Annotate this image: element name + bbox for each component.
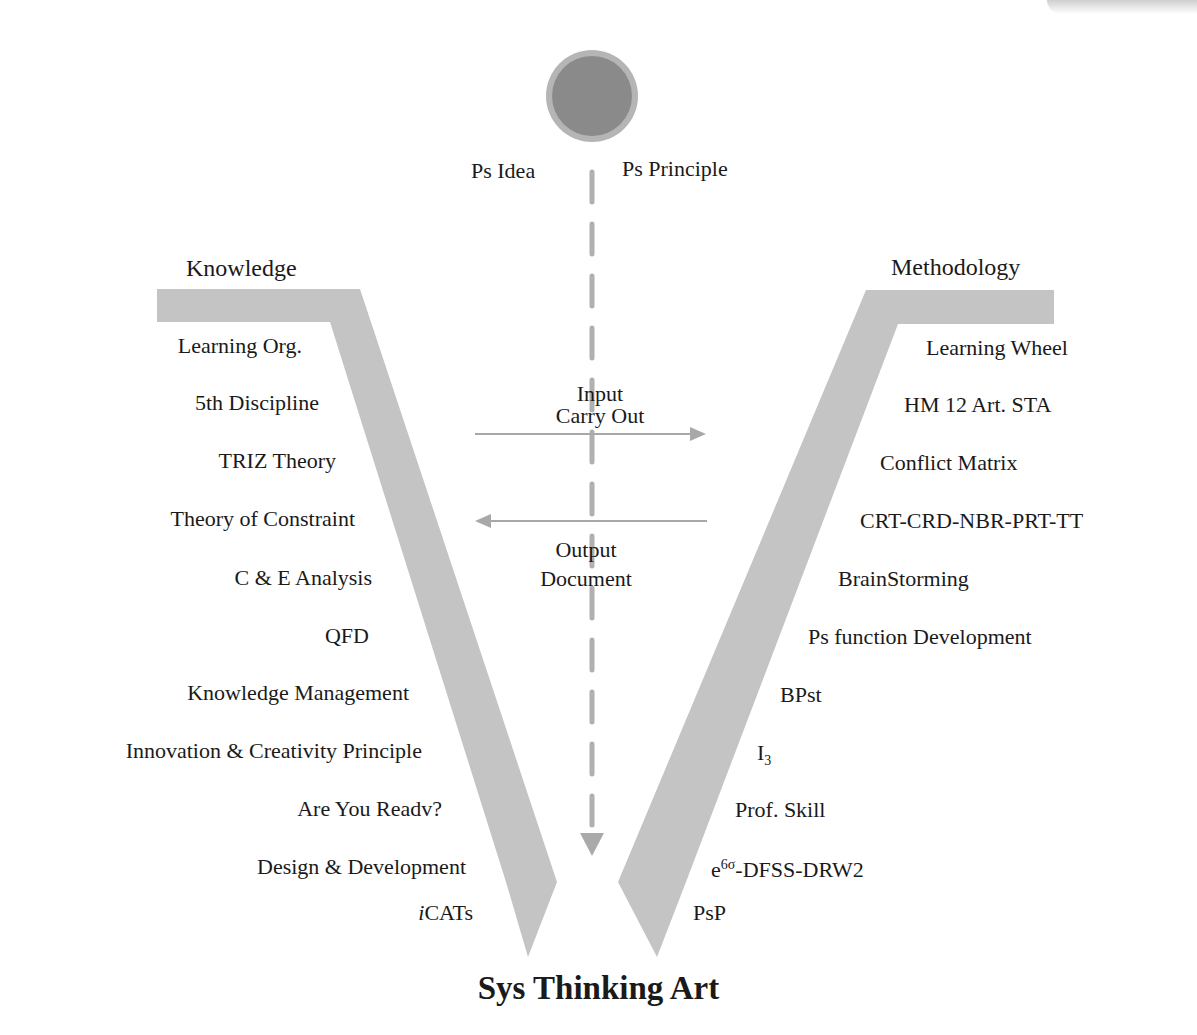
right-item-brainstorming: BrainStorming (838, 568, 969, 590)
left-arrowhead-icon (475, 514, 491, 528)
input-label: Input Carry Out (500, 383, 700, 427)
left-item-knowledge-management: Knowledge Management (187, 682, 409, 704)
right-item-conflict-matrix: Conflict Matrix (880, 452, 1017, 474)
left-item-triz-theory: TRIZ Theory (218, 450, 336, 472)
ps-principle-label: Ps Principle (622, 158, 728, 180)
right-item-prof-skill: Prof. Skill (735, 799, 825, 821)
right-item-hm-12-art-sta: HM 12 Art. STA (904, 394, 1051, 416)
ps-idea-label: Ps Idea (471, 160, 535, 182)
right-item-bpst: BPst (780, 684, 822, 706)
left-item-c-e-analysis: C & E Analysis (234, 567, 372, 589)
right-item-psp: PsP (693, 902, 726, 924)
left-item-are-you-ready: Are You Readv? (297, 798, 442, 820)
left-item-qfd: QFD (325, 625, 369, 647)
output-label: Output Document (486, 535, 686, 593)
left-item-theory-of-constraint: Theory of Constraint (170, 508, 355, 530)
diagram-title: Sys Thinking Art (0, 970, 1197, 1007)
right-item-i3: I3 (757, 742, 771, 768)
left-item-design-development: Design & Development (257, 856, 466, 878)
right-item-learning-wheel: Learning Wheel (926, 337, 1068, 359)
right-item-ps-function-development: Ps function Development (808, 626, 1032, 648)
left-item-learning-org: Learning Org. (178, 335, 302, 357)
right-item-crt-crd: CRT-CRD-NBR-PRT-TT (860, 510, 1083, 532)
left-item-innovation-creativity: Innovation & Creativity Principle (126, 740, 422, 762)
idea-circle-core (552, 56, 632, 136)
left-item-icats: iCATs (418, 902, 473, 924)
right-item-e6sigma-dfss: e6σ-DFSS-DRW2 (711, 858, 864, 881)
knowledge-header: Knowledge (186, 256, 297, 280)
right-arrowhead-icon (690, 427, 706, 441)
methodology-header: Methodology (891, 255, 1020, 279)
down-arrowhead-icon (580, 833, 604, 856)
left-item-5th-discipline: 5th Discipline (195, 392, 319, 414)
